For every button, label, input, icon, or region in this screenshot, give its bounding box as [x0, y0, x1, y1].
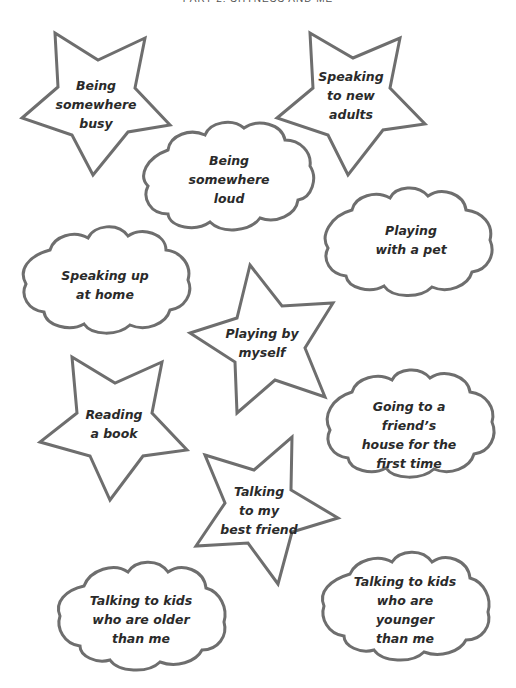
label-playing-by-myself: Playing by myself	[225, 324, 298, 362]
label-being-somewhere-loud: Being somewhere loud	[188, 151, 269, 208]
label-speaking-up-at-home: Speaking up at home	[61, 266, 149, 304]
label-speaking-to-new-adults: Speaking to new adults	[318, 67, 383, 124]
label-talking-to-kids-older: Talking to kids who are older than me	[90, 591, 192, 648]
label-talking-to-my-best-friend: Talking to my best friend	[220, 482, 297, 539]
label-talking-to-kids-younger: Talking to kids who are younger than me	[350, 572, 461, 648]
label-playing-with-a-pet: Playing with a pet	[375, 221, 446, 259]
label-being-somewhere-busy: Being somewhere busy	[55, 76, 136, 133]
label-going-to-a-friends-house: Going to a friend’s house for the first …	[356, 397, 463, 473]
label-reading-a-book: Reading a book	[86, 405, 143, 443]
